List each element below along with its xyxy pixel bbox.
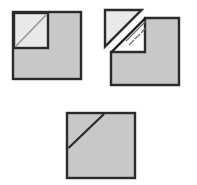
diagram-canvas: Paper folding sequence: square with corn…	[0, 0, 197, 185]
figure-unfolded	[67, 113, 135, 178]
diagram-root: Paper folding sequence: square with corn…	[0, 0, 197, 185]
figure-folded	[13, 12, 81, 79]
plain-square	[67, 113, 135, 178]
